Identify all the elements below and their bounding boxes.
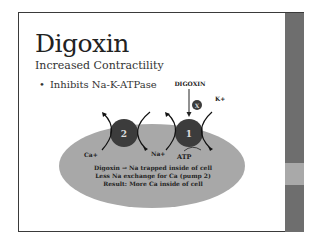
arrowhead-icon (187, 112, 192, 117)
arrowhead-icon (165, 112, 170, 117)
pump-diagram: DIGOXIN X K+ 2 1 Ca+ Na+ ATP Digoxin → N… (0, 0, 322, 252)
cell-text-line-1: Digoxin → Na trapped inside of cell (94, 164, 213, 172)
ca-label: Ca+ (84, 151, 98, 158)
pump-1-label: 1 (186, 129, 192, 139)
cell-text-line-2: Less Na exchange for Ca (pump 2) (95, 172, 211, 180)
atp-label: ATP (176, 153, 192, 161)
pump-2-label: 2 (121, 129, 127, 139)
block-x-label: X (195, 102, 200, 109)
digoxin-label: DIGOXIN (174, 80, 206, 87)
cell-text-line-3: Result: More Ca inside of cell (103, 180, 203, 187)
k-label: K+ (215, 95, 225, 102)
na-label: Na+ (151, 150, 165, 157)
